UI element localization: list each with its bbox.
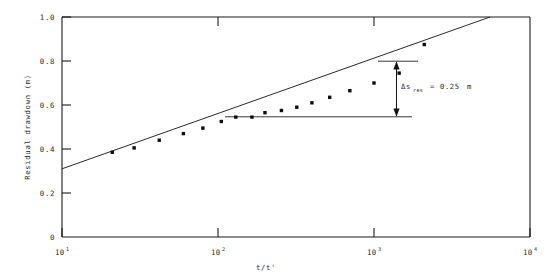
x-tick-label-1e2: 10 2 (211, 246, 225, 257)
x-tick-mantissa-1e4: 10 (523, 248, 533, 257)
delta-s-annotation: Δs res = 0.25 m (401, 82, 472, 93)
data-point (280, 109, 283, 112)
x-tick-label-1e1: 10 1 (55, 246, 69, 257)
data-points (111, 43, 426, 154)
fit-line (62, 17, 490, 169)
data-point (310, 101, 313, 104)
y-tick-label-0.8: 0.8 (40, 57, 55, 66)
x-tick-exponent-1e2: 2 (222, 246, 225, 252)
delta-s-arrow (393, 61, 399, 117)
data-point (234, 115, 237, 118)
data-point (250, 115, 253, 118)
delta-s-unit: m (467, 82, 472, 91)
x-tick-mantissa-1e3: 10 (367, 248, 377, 257)
delta-s-arrow-head-up (393, 61, 399, 69)
y-tick-label-0: 0 (50, 233, 55, 242)
y-tick-label-0.2: 0.2 (40, 189, 55, 198)
data-point (397, 71, 400, 74)
y-tick-label-0.6: 0.6 (40, 101, 55, 110)
x-axis-title: t/t' (256, 263, 276, 272)
chart-canvas: 1.0 0.8 0.6 0.4 0.2 0 10 1 10 2 10 3 10 … (0, 0, 558, 274)
data-point (182, 132, 185, 135)
delta-s-arrow-head-down (393, 109, 399, 117)
delta-s-value: 0.25 (440, 82, 460, 91)
x-tick-label-1e4: 10 4 (523, 246, 537, 257)
data-point (132, 146, 135, 149)
delta-s-subscript: res (413, 87, 423, 93)
data-point (201, 126, 204, 129)
data-point (220, 120, 223, 123)
data-point (328, 96, 331, 99)
data-point (111, 151, 114, 154)
x-axis-ticks-top (218, 17, 374, 26)
x-axis-ticks (62, 228, 530, 237)
data-point (295, 106, 298, 109)
plot-frame (62, 17, 530, 237)
x-tick-labels: 10 1 10 2 10 3 10 4 (55, 246, 537, 257)
x-tick-label-1e3: 10 3 (367, 246, 381, 257)
y-tick-labels: 1.0 0.8 0.6 0.4 0.2 0 (40, 13, 55, 242)
data-point (263, 111, 266, 114)
x-tick-mantissa-1e2: 10 (211, 248, 221, 257)
data-point (348, 89, 351, 92)
data-point (158, 139, 161, 142)
y-axis-ticks (62, 17, 71, 193)
x-tick-exponent-1e4: 4 (534, 246, 537, 252)
x-tick-exponent-1e1: 1 (66, 246, 69, 252)
data-point (423, 43, 426, 46)
figure-container: 1.0 0.8 0.6 0.4 0.2 0 10 1 10 2 10 3 10 … (0, 0, 558, 274)
x-tick-exponent-1e3: 3 (378, 246, 381, 252)
y-tick-label-0.4: 0.4 (40, 145, 55, 154)
delta-s-equals: = (430, 82, 435, 91)
x-tick-mantissa-1e1: 10 (55, 248, 65, 257)
y-axis-title: Residual drawdown (m) (23, 74, 32, 180)
y-tick-label-1.0: 1.0 (40, 13, 55, 22)
delta-s-symbol: Δs (401, 82, 411, 91)
data-point (372, 81, 375, 84)
